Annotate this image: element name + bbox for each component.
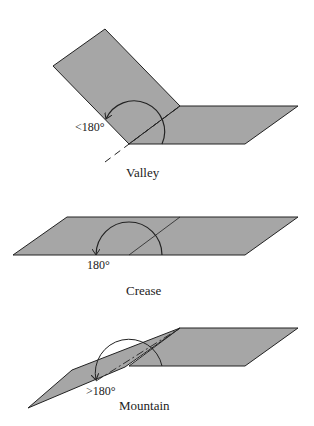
crease-angle-label: 180° <box>87 258 110 273</box>
crease-diagram <box>13 217 298 255</box>
crease-caption: Crease <box>126 283 161 299</box>
valley-angle-label: <180° <box>75 120 105 135</box>
mountain-caption: Mountain <box>119 398 170 414</box>
valley-fold-diagram <box>53 29 298 162</box>
valley-caption: Valley <box>126 165 159 181</box>
mountain-fold-diagram <box>28 328 298 408</box>
fold-illustrations <box>0 0 314 426</box>
fold-diagram-figure: <180° Valley 180° Crease >180° Mountain <box>0 0 314 426</box>
mountain-angle-label: >180° <box>86 384 116 399</box>
